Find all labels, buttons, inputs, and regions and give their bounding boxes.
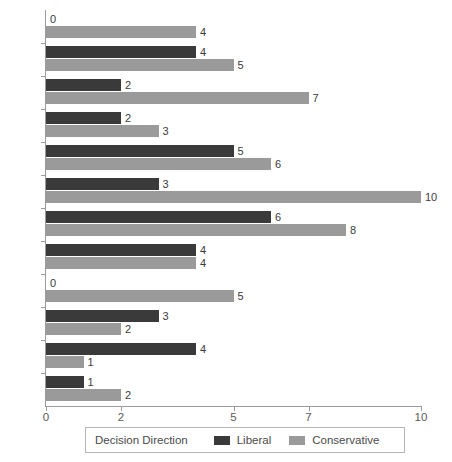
bar-group-conservative: 2 [46, 323, 422, 335]
legend-item-conservative[interactable]: Conservative [289, 434, 379, 446]
y-axis-tick [41, 142, 46, 143]
legend-label: Liberal [237, 434, 272, 446]
bar-conservative [46, 59, 234, 71]
plot-area: 1929041930451931271932231933561934310193… [46, 10, 422, 406]
chart-row: 193223 [46, 109, 422, 142]
bar-conservative [46, 224, 346, 236]
bar-conservative [46, 26, 196, 38]
bar-value-label: 2 [121, 112, 131, 124]
bar-chart: 1929041930451931271932231933561934310193… [0, 0, 452, 462]
bar-conservative [46, 389, 121, 401]
chart-row: 1934310 [46, 175, 422, 208]
bar-value-label: 10 [421, 191, 437, 203]
bar-group-conservative: 3 [46, 125, 422, 137]
bar-liberal [46, 310, 159, 322]
bar-value-label: 3 [159, 178, 169, 190]
chart-row: 193568 [46, 208, 422, 241]
chart-row: 193705 [46, 274, 422, 307]
y-axis-tick [41, 175, 46, 176]
bar-conservative [46, 323, 121, 335]
bar-value-label: 7 [309, 92, 319, 104]
bar-group-liberal: 4 [46, 343, 422, 355]
bar-group-liberal: 0 [46, 277, 422, 289]
chart-row: 193941 [46, 340, 422, 373]
y-axis-tick [41, 307, 46, 308]
bar-liberal [46, 145, 234, 157]
bar-value-label: 0 [46, 13, 56, 25]
bar-liberal [46, 79, 121, 91]
chart-row: 192904 [46, 10, 422, 43]
chart-row: 193356 [46, 142, 422, 175]
legend-entries: LiberalConservative [214, 434, 398, 446]
bar-value-label: 2 [121, 79, 131, 91]
bar-group-liberal: 1 [46, 376, 422, 388]
bar-group-conservative: 5 [46, 290, 422, 302]
bar-value-label: 4 [196, 257, 206, 269]
chart-row: 193644 [46, 241, 422, 274]
bar-conservative [46, 191, 421, 203]
bar-conservative [46, 356, 84, 368]
legend-swatch-conservative [289, 436, 305, 445]
legend-title: Decision Direction [86, 434, 188, 446]
bar-liberal [46, 46, 196, 58]
bar-group-conservative: 10 [46, 191, 422, 203]
y-axis-tick [41, 109, 46, 110]
bar-conservative [46, 290, 234, 302]
chart-row: 193832 [46, 307, 422, 340]
bar-group-liberal: 3 [46, 178, 422, 190]
bar-value-label: 5 [234, 59, 244, 71]
bar-group-liberal: 5 [46, 145, 422, 157]
y-axis-tick [41, 241, 46, 242]
bar-value-label: 4 [196, 26, 206, 38]
x-axis-tick-label: 7 [305, 411, 311, 423]
bar-conservative [46, 125, 159, 137]
bar-group-conservative: 5 [46, 59, 422, 71]
bar-group-liberal: 2 [46, 112, 422, 124]
bar-liberal [46, 343, 196, 355]
legend-label: Conservative [312, 434, 379, 446]
bar-value-label: 3 [159, 125, 169, 137]
legend: Decision Direction LiberalConservative [85, 427, 405, 453]
y-axis-tick [41, 76, 46, 77]
bar-value-label: 8 [346, 224, 356, 236]
x-axis-tick-label: 5 [230, 411, 236, 423]
bar-value-label: 4 [196, 46, 206, 58]
bar-conservative [46, 158, 271, 170]
bar-liberal [46, 178, 159, 190]
x-axis-tick-label: 0 [43, 411, 49, 423]
bar-group-liberal: 3 [46, 310, 422, 322]
bar-value-label: 5 [234, 290, 244, 302]
bar-group-conservative: 4 [46, 257, 422, 269]
y-axis-tick [41, 340, 46, 341]
bar-conservative [46, 257, 196, 269]
bar-value-label: 6 [271, 158, 281, 170]
x-axis-tick-label: 2 [118, 411, 124, 423]
bar-group-conservative: 6 [46, 158, 422, 170]
bar-group-liberal: 2 [46, 79, 422, 91]
bar-value-label: 4 [196, 244, 206, 256]
bar-conservative [46, 92, 309, 104]
y-axis-tick [41, 373, 46, 374]
bar-group-conservative: 4 [46, 26, 422, 38]
bar-group-liberal: 6 [46, 211, 422, 223]
legend-item-liberal[interactable]: Liberal [214, 434, 272, 446]
bar-value-label: 1 [84, 376, 94, 388]
y-axis-tick [41, 208, 46, 209]
chart-row: 194012 [46, 373, 422, 406]
y-axis-tick [41, 274, 46, 275]
bar-group-conservative: 2 [46, 389, 422, 401]
bar-value-label: 1 [84, 356, 94, 368]
bar-group-conservative: 8 [46, 224, 422, 236]
bar-value-label: 4 [196, 343, 206, 355]
bar-group-liberal: 4 [46, 244, 422, 256]
chart-row: 193127 [46, 76, 422, 109]
bar-liberal [46, 376, 84, 388]
bar-value-label: 2 [121, 323, 131, 335]
bar-value-label: 0 [46, 277, 56, 289]
bar-liberal [46, 211, 271, 223]
bar-value-label: 6 [271, 211, 281, 223]
bar-liberal [46, 112, 121, 124]
y-axis-tick [41, 43, 46, 44]
legend-swatch-liberal [214, 436, 230, 445]
x-axis-tick-label: 10 [415, 411, 428, 423]
